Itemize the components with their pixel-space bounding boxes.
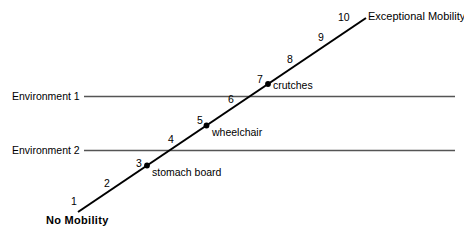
scale-number-4: 4 (168, 134, 174, 145)
marker-dot-stomach-board (144, 163, 150, 169)
scale-number-3: 3 (136, 158, 142, 169)
device-label-stomach-board: stomach board (152, 167, 221, 178)
scale-number-8: 8 (287, 54, 293, 65)
scale-number-5: 5 (197, 115, 203, 126)
scale-number-1: 1 (71, 196, 77, 207)
scale-number-9: 9 (318, 32, 324, 43)
scale-number-7: 7 (257, 74, 263, 85)
scale-number-2: 2 (104, 178, 110, 189)
scale-number-10: 10 (338, 12, 350, 23)
diagram-canvas: Environment 1 Environment 2 1 2 3 4 5 6 … (0, 0, 464, 241)
no-mobility-label: No Mobility (46, 215, 109, 226)
marker-dot-crutches (265, 81, 271, 87)
exceptional-mobility-label: Exceptional Mobility (368, 11, 464, 22)
device-label-crutches: crutches (273, 80, 313, 91)
environment-2-label: Environment 2 (12, 145, 80, 156)
marker-dot-wheelchair (204, 123, 210, 129)
device-label-wheelchair: wheelchair (212, 127, 262, 138)
environment-1-label: Environment 1 (12, 91, 80, 102)
scale-number-6: 6 (228, 94, 234, 105)
mobility-scale-line (78, 18, 366, 212)
diagram-graphics (0, 0, 464, 241)
